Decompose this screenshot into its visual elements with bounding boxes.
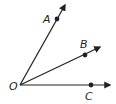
point-a-label: A [42, 13, 51, 26]
point-b-dot [83, 53, 88, 58]
point-c-label: C [85, 90, 93, 103]
ray-oa: A [20, 5, 65, 85]
angle-rays-diagram: A B C O [0, 0, 116, 104]
point-b-label: B [80, 38, 88, 51]
vertex-o-label: O [9, 80, 18, 93]
point-a-dot [55, 17, 60, 22]
ray-oc: C [20, 83, 110, 103]
point-c-dot [89, 83, 94, 88]
ray-ob: B [20, 38, 100, 85]
